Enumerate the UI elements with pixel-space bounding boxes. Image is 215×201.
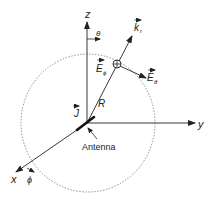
kr-label: k r [134, 20, 143, 34]
e-theta-vector [120, 66, 146, 78]
antenna-radiation-diagram: z y x θ ϕ k r E ϕ E θ J R Antenna [0, 0, 215, 201]
z-axis-label: z [84, 8, 91, 20]
svg-text:θ: θ [154, 79, 158, 85]
antenna-label: Antenna [82, 142, 116, 152]
svg-text:J: J [73, 108, 80, 119]
phi-label: ϕ [27, 175, 32, 185]
svg-text:ϕ: ϕ [103, 70, 107, 76]
y-axis-label: y [197, 118, 205, 130]
theta-label: θ [96, 29, 101, 38]
antenna-dipole [77, 117, 94, 130]
svg-text:r: r [140, 28, 143, 34]
antenna-pointer-arrow [88, 128, 97, 139]
e-theta-label: E θ [147, 70, 158, 85]
x-axis-label: x [10, 173, 17, 185]
e-phi-label: E ϕ [96, 60, 107, 76]
e-phi-into-page-icon [113, 60, 121, 68]
svg-text:E: E [147, 72, 154, 83]
svg-text:E: E [96, 63, 103, 74]
radius-label: R [98, 98, 105, 109]
phi-arrow [27, 168, 34, 172]
radial-vector-kr [87, 36, 132, 123]
j-current-label: J [73, 106, 80, 119]
